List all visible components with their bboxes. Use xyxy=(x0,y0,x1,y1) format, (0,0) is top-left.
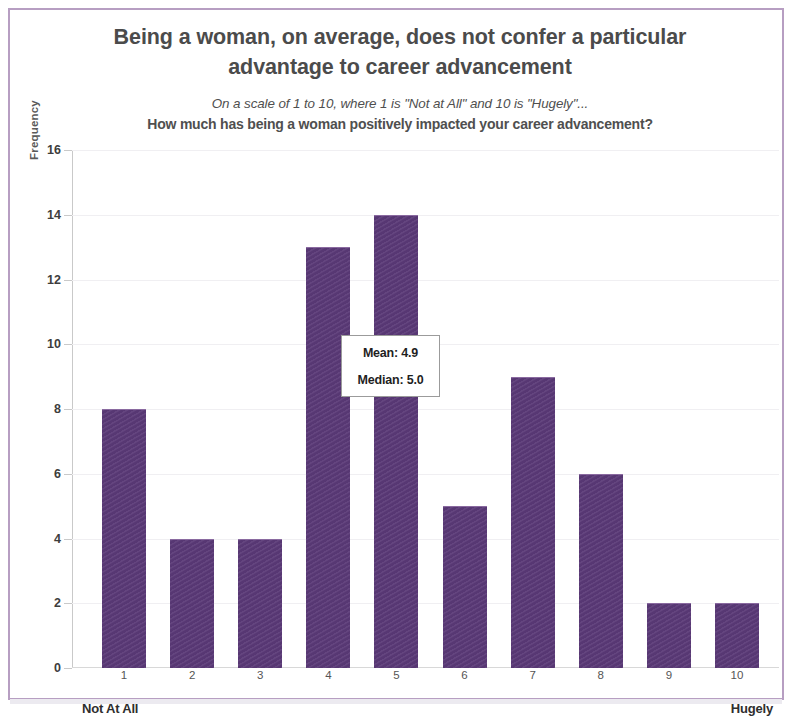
y-axis-title: Frequency xyxy=(28,100,40,160)
mean-value: Mean: 4.9 xyxy=(363,346,418,360)
y-tick-label: 0 xyxy=(54,661,61,675)
y-tick-label: 16 xyxy=(47,143,61,157)
gridline xyxy=(72,409,779,410)
y-tick xyxy=(64,344,72,345)
stats-callout: Mean: 4.9 Median: 5.0 xyxy=(341,335,440,397)
bar xyxy=(374,215,418,668)
x-tick-label: 10 xyxy=(715,669,759,681)
page-title: Being a woman, on average, does not conf… xyxy=(80,22,720,82)
y-tick xyxy=(64,539,72,540)
subtitle-line-1: On a scale of 1 to 10, where 1 is "Not a… xyxy=(100,94,700,114)
y-tick xyxy=(64,409,72,410)
y-tick-label: 4 xyxy=(54,532,61,546)
gridline xyxy=(72,280,779,281)
x-tick-label: 3 xyxy=(238,669,282,681)
chart-subtitle: On a scale of 1 to 10, where 1 is "Not a… xyxy=(100,94,700,134)
x-tick-label: 6 xyxy=(443,669,487,681)
x-tick-label: 8 xyxy=(579,669,623,681)
median-value: Median: 5.0 xyxy=(358,373,424,387)
bar xyxy=(647,603,691,668)
bar xyxy=(238,539,282,669)
gridline xyxy=(72,150,779,151)
y-tick-label: 2 xyxy=(54,596,61,610)
gridline xyxy=(72,474,779,475)
axis-anchor-low: Not At All xyxy=(82,701,138,716)
y-tick xyxy=(64,150,72,151)
bar xyxy=(715,603,759,668)
x-tick-label: 5 xyxy=(374,669,418,681)
y-tick-label: 6 xyxy=(54,467,61,481)
bar xyxy=(579,474,623,668)
x-tick-label: 4 xyxy=(306,669,350,681)
plot-area: 0246810121416 12345678910 Mean: 4.9 Medi… xyxy=(72,150,779,668)
bar xyxy=(102,409,146,668)
bar xyxy=(443,506,487,668)
bar xyxy=(306,247,350,668)
slide-frame: Being a woman, on average, does not conf… xyxy=(8,8,784,700)
x-tick-label: 7 xyxy=(511,669,555,681)
y-tick xyxy=(64,215,72,216)
gridline xyxy=(72,215,779,216)
y-tick xyxy=(64,280,72,281)
y-tick-label: 14 xyxy=(47,208,61,222)
y-tick-label: 10 xyxy=(47,337,61,351)
subtitle-line-2: How much has being a woman positively im… xyxy=(100,114,700,134)
y-tick-label: 12 xyxy=(47,273,61,287)
y-tick xyxy=(64,603,72,604)
x-tick-label: 2 xyxy=(170,669,214,681)
bar xyxy=(170,539,214,669)
y-tick xyxy=(64,668,72,669)
y-tick xyxy=(64,474,72,475)
x-tick-label: 9 xyxy=(647,669,691,681)
axis-anchor-high: Hugely xyxy=(731,701,773,716)
x-tick-label: 1 xyxy=(102,669,146,681)
bar xyxy=(511,377,555,668)
y-tick-label: 8 xyxy=(54,402,61,416)
